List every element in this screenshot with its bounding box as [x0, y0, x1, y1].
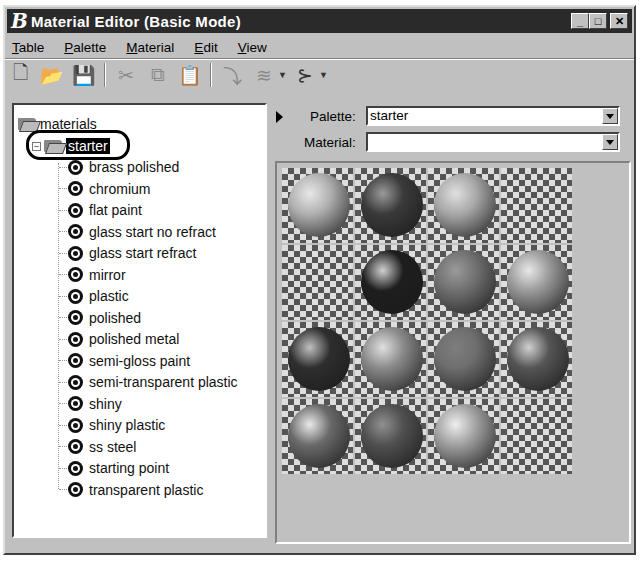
material-sphere [434, 404, 496, 468]
material-icon [68, 461, 83, 476]
material-icon [68, 482, 83, 497]
menu-material[interactable]: Material [123, 39, 177, 56]
tree-item-material[interactable]: glass start no refract [59, 224, 216, 240]
new-icon[interactable]: 🗋 [6, 62, 34, 88]
tree-item-material[interactable]: starting point [59, 460, 169, 476]
material-icon [68, 224, 83, 239]
material-icon [68, 353, 83, 368]
menu-label: aterial [138, 40, 175, 55]
chevron-down-icon[interactable]: ▼ [319, 70, 328, 80]
material-icon [68, 418, 83, 433]
material-preview-cell[interactable] [428, 245, 501, 322]
material-sphere [361, 327, 423, 391]
tree-line [59, 382, 67, 383]
close-button[interactable]: ✕ [610, 13, 628, 29]
palette-label: Palette: [310, 109, 356, 124]
tree-item-label: semi-gloss paint [89, 353, 190, 369]
play-arrow-icon[interactable] [276, 111, 283, 123]
material-preview-cell[interactable] [428, 322, 501, 399]
window-title: Material Editor (Basic Mode) [31, 13, 241, 30]
tree-line [59, 468, 67, 469]
copy-icon[interactable]: ⧉ [144, 62, 172, 88]
tree-item-label: polished [89, 310, 141, 326]
maximize-button[interactable]: □ [589, 13, 607, 29]
material-preview-grid [282, 168, 574, 476]
tree-item-label: glass start refract [89, 245, 196, 261]
tree-item-material[interactable]: shiny plastic [59, 417, 165, 433]
tree-item-label: polished metal [89, 331, 179, 347]
tree-item-material[interactable]: flat paint [59, 202, 142, 218]
material-preview-cell[interactable] [501, 399, 574, 476]
material-sphere [361, 404, 423, 468]
tree-item-material[interactable]: semi-gloss paint [59, 353, 190, 369]
connect-icon[interactable]: ⊱ [291, 62, 319, 88]
material-dropdown[interactable] [366, 132, 620, 152]
material-preview-cell[interactable] [501, 322, 574, 399]
minimize-button[interactable]: _ [571, 13, 589, 29]
material-preview-cell[interactable] [282, 245, 355, 322]
material-preview-cell[interactable] [282, 322, 355, 399]
tree-item-material[interactable]: polished [59, 310, 141, 326]
tree-line [59, 167, 67, 168]
tree-item-material[interactable]: glass start refract [59, 245, 196, 261]
paste-icon[interactable]: 📋 [176, 62, 204, 88]
tree-line [59, 274, 67, 275]
tree-item-material[interactable]: chromium [59, 181, 150, 197]
annotation-circle [26, 130, 130, 160]
cut-icon[interactable]: ✂ [112, 62, 140, 88]
tree-line [59, 188, 67, 189]
tree-item-label: glass start no refract [89, 224, 216, 240]
material-icon [68, 246, 83, 261]
material-preview-cell[interactable] [501, 168, 574, 245]
tree-item-material[interactable]: polished metal [59, 331, 179, 347]
material-preview-cell[interactable] [355, 399, 428, 476]
menu-label: able [19, 40, 45, 55]
menu-edit[interactable]: Edit [191, 39, 220, 56]
palette-dropdown[interactable]: starter [366, 106, 620, 126]
material-preview-cell[interactable] [355, 168, 428, 245]
save-icon[interactable]: 💾 [70, 62, 98, 88]
open-folder-icon[interactable]: 📂 [38, 62, 66, 88]
menu-palette[interactable]: Palette [61, 39, 109, 56]
material-preview-cell[interactable] [428, 168, 501, 245]
material-sphere [434, 250, 496, 314]
material-icon [68, 160, 83, 175]
menu-view[interactable]: View [235, 39, 270, 56]
chevron-down-icon[interactable] [602, 108, 618, 124]
tree-item-material[interactable]: brass polished [59, 159, 179, 175]
material-preview-cell[interactable] [282, 168, 355, 245]
material-preview-cell[interactable] [355, 245, 428, 322]
tree-item-material[interactable]: semi-transparent plastic [59, 374, 238, 390]
title-bar[interactable]: B Material Editor (Basic Mode) _ □ ✕ [7, 9, 632, 33]
tree-item-label: semi-transparent plastic [89, 374, 238, 390]
material-preview-panel [275, 161, 631, 544]
material-preview-cell[interactable] [428, 399, 501, 476]
material-preview-cell[interactable] [355, 322, 428, 399]
menu-mnemonic: M [126, 40, 137, 55]
tree-item-label: ss steel [89, 439, 136, 455]
stack-icon[interactable]: ≋ [250, 62, 278, 88]
tree-item-label: mirror [89, 267, 126, 283]
tree-item-material[interactable]: shiny [59, 396, 122, 412]
tree-item-material[interactable]: transparent plastic [59, 482, 203, 498]
material-icon [68, 396, 83, 411]
material-preview-cell[interactable] [282, 399, 355, 476]
tree-item-label: brass polished [89, 159, 179, 175]
tree-item-label: shiny plastic [89, 417, 165, 433]
tree-line [59, 489, 67, 490]
menu-table[interactable]: Table [9, 39, 47, 56]
tree-item-material[interactable]: ss steel [59, 439, 136, 455]
material-sphere [507, 250, 569, 314]
tree-item-material[interactable]: plastic [59, 288, 129, 304]
tree-line [59, 296, 67, 297]
tree-item-material[interactable]: mirror [59, 267, 126, 283]
chevron-down-icon[interactable] [602, 134, 618, 150]
assign-icon[interactable]: ⤵ [218, 62, 246, 88]
material-sphere [434, 173, 496, 237]
app-logo-icon: B [11, 9, 28, 33]
chevron-down-icon[interactable]: ▼ [278, 70, 287, 80]
material-icon [68, 439, 83, 454]
material-preview-cell[interactable] [501, 245, 574, 322]
tree-item-label: transparent plastic [89, 482, 203, 498]
toolbar: 🗋 📂 💾 ✂ ⧉ 📋 ⤵ ≋ ▼ ⊱ ▼ [6, 60, 328, 90]
